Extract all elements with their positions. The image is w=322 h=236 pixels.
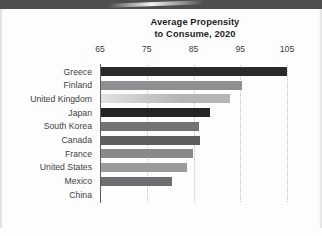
category-label-mexico: Mexico <box>64 175 92 187</box>
bar-united-kingdom <box>100 94 230 103</box>
scanned-page: Average Propensity to Consume, 2020 6575… <box>0 0 322 236</box>
x-tick-label-85: 85 <box>189 44 199 54</box>
category-label-finland: Finland <box>64 79 93 91</box>
bar-mexico <box>100 177 172 186</box>
x-tick-label-105: 105 <box>280 44 294 54</box>
bar-japan <box>100 108 210 117</box>
bar-chart: Average Propensity to Consume, 2020 6575… <box>0 9 322 228</box>
category-label-south-korea: South Korea <box>44 120 92 132</box>
x-axis-tick-labels: 65758595105 <box>0 44 322 56</box>
category-label-japan: Japan <box>68 107 92 119</box>
category-label-united-states: United States <box>40 161 92 173</box>
chart-title-line-1: Average Propensity <box>100 17 290 29</box>
chart-title-line-2: to Consume, 2020 <box>100 29 290 41</box>
scan-fade-artifact <box>100 94 181 103</box>
bar-finland <box>100 81 242 90</box>
plot-area <box>100 65 287 202</box>
x-tick-label-65: 65 <box>95 44 105 54</box>
y-axis-line <box>100 64 101 203</box>
bar-greece <box>100 67 287 76</box>
bar-canada <box>100 136 200 145</box>
category-label-canada: Canada <box>62 134 92 146</box>
gridline-105 <box>287 65 288 202</box>
x-tick-label-75: 75 <box>142 44 152 54</box>
category-label-france: France <box>65 148 92 160</box>
category-label-greece: Greece <box>64 66 93 78</box>
bar-france <box>100 149 193 158</box>
category-label-united-kingdom: United Kingdom <box>30 93 92 105</box>
bar-south-korea <box>100 122 199 131</box>
chart-title: Average Propensity to Consume, 2020 <box>100 17 290 40</box>
bar-united-states <box>100 163 187 172</box>
category-label-china: China <box>69 189 92 201</box>
x-tick-label-95: 95 <box>235 44 245 54</box>
y-axis-category-labels: GreeceFinlandUnited KingdomJapanSouth Ko… <box>0 65 96 202</box>
